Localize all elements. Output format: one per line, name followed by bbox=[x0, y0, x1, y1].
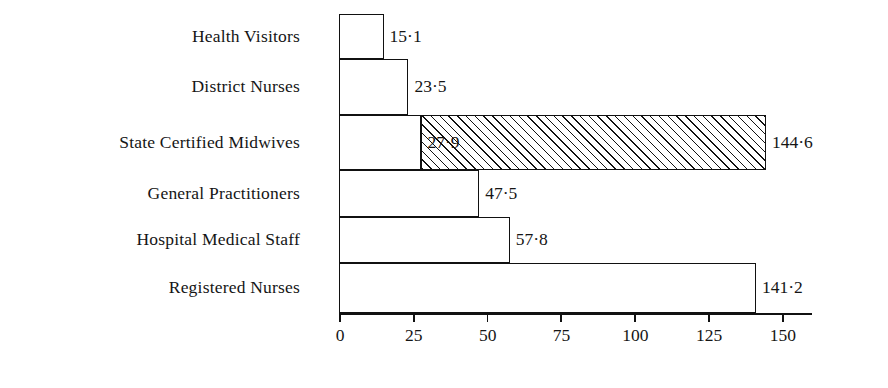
bar-segment-2-1 bbox=[339, 59, 408, 115]
bar-value-label-3: 144·6 bbox=[772, 132, 813, 153]
bar-segment-3-1 bbox=[339, 115, 421, 170]
bar-chart: Health VisitorsDistrict NursesState Cert… bbox=[0, 0, 888, 388]
x-axis-tick-label-25: 25 bbox=[405, 325, 423, 346]
bar-segment-5-1 bbox=[339, 217, 510, 263]
bar-value-label-6: 141·2 bbox=[762, 277, 803, 298]
bar-value-label-2: 23·5 bbox=[414, 76, 446, 97]
bar-value-label-4: 47·5 bbox=[485, 183, 517, 204]
bar-segment-1-1 bbox=[339, 14, 384, 59]
x-axis-tick-label-100: 100 bbox=[622, 325, 648, 346]
x-axis-tick-label-0: 0 bbox=[336, 325, 345, 346]
x-axis-tick-0 bbox=[339, 313, 341, 322]
segment-value-label-3: 27·9 bbox=[427, 132, 459, 153]
x-axis-tick-75 bbox=[560, 313, 562, 322]
bar-value-label-1: 15·1 bbox=[390, 26, 422, 47]
x-axis-tick-125 bbox=[708, 313, 710, 322]
x-axis-tick-label-150: 150 bbox=[770, 325, 796, 346]
bar-segment-3-2 bbox=[421, 115, 766, 170]
x-axis-tick-25 bbox=[413, 313, 415, 322]
x-axis-tick-label-125: 125 bbox=[696, 325, 722, 346]
x-axis-tick-label-75: 75 bbox=[553, 325, 571, 346]
bar-segment-4-1 bbox=[339, 170, 479, 217]
x-axis-line bbox=[339, 313, 812, 315]
bar-segment-6-1 bbox=[339, 263, 756, 313]
x-axis-tick-label-50: 50 bbox=[479, 325, 497, 346]
plot-area: 15·123·527·9144·647·557·8141·20255075100… bbox=[0, 0, 888, 388]
x-axis-tick-50 bbox=[487, 313, 489, 322]
bar-value-label-5: 57·8 bbox=[516, 229, 548, 250]
x-axis-tick-100 bbox=[634, 313, 636, 322]
x-axis-tick-150 bbox=[782, 313, 784, 322]
